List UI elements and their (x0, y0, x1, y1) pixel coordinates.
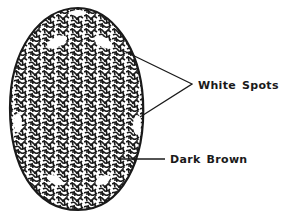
white-spot-top-center (70, 10, 86, 16)
seed-outline (10, 8, 143, 210)
seed-diagram (0, 0, 283, 219)
white-spot-right (133, 115, 141, 135)
label-white-spots: White Spots (198, 80, 279, 91)
label-dark-brown: Dark Brown (170, 154, 247, 165)
white-spot-left (14, 113, 22, 133)
